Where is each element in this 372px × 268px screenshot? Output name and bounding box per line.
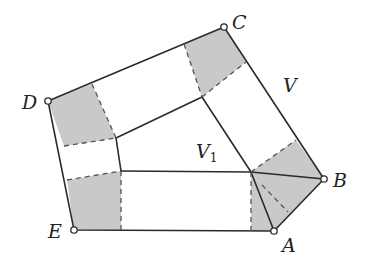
- shaded-region-c: [184, 27, 246, 97]
- label-c: C: [232, 11, 247, 33]
- label-v: V: [283, 74, 299, 96]
- shaded-regions: [48, 27, 324, 231]
- vertex-e: [71, 227, 77, 233]
- label-d: D: [21, 91, 37, 113]
- vertex-c: [221, 24, 227, 30]
- vertex-d: [45, 98, 51, 104]
- label-b: B: [332, 169, 347, 191]
- shaded-region-d: [48, 84, 116, 146]
- line-r-p: [121, 171, 251, 172]
- geometry-diagram: A B C D E V V1: [0, 0, 372, 268]
- label-e: E: [47, 220, 62, 242]
- line-q-r: [116, 138, 121, 171]
- label-v1-subscript: 1: [210, 151, 218, 165]
- label-v1: V1: [196, 140, 217, 165]
- vertex-b: [321, 176, 327, 182]
- shaded-region-e: [67, 171, 121, 230]
- label-a: A: [280, 234, 296, 256]
- line-q-s: [116, 97, 202, 138]
- vertex-a: [271, 228, 277, 234]
